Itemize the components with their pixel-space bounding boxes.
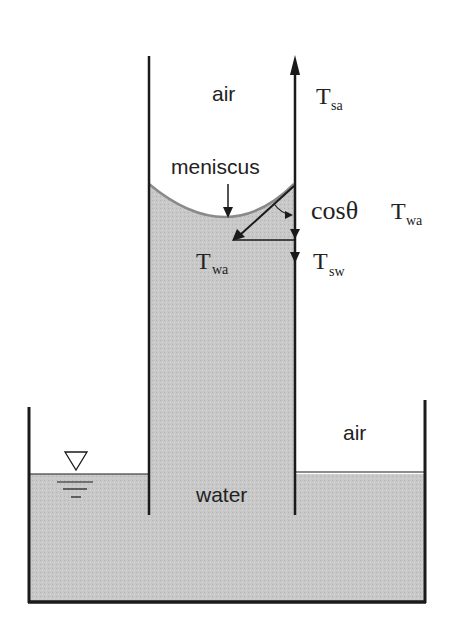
- svg-text:T: T: [391, 198, 406, 224]
- label-meniscus: meniscus: [171, 155, 260, 178]
- diagram-svg: air meniscus air water T sa cosθ T wa T …: [0, 0, 449, 630]
- svg-text:T: T: [313, 248, 328, 274]
- tension-sa-arrow-icon: [290, 55, 300, 75]
- svg-text:wa: wa: [406, 213, 423, 228]
- label-cos-theta-T-wa: cosθ T wa: [311, 196, 423, 228]
- meniscus-pointer-arrow-icon: [223, 184, 233, 218]
- label-T-sw: T sw: [313, 248, 345, 279]
- svg-text:T: T: [316, 83, 331, 109]
- svg-text:wa: wa: [212, 262, 229, 277]
- label-air-tube: air: [212, 82, 235, 105]
- label-water: water: [195, 483, 247, 506]
- svg-text:T: T: [196, 248, 211, 274]
- svg-text:sa: sa: [331, 98, 343, 113]
- svg-text:cosθ: cosθ: [311, 196, 358, 225]
- label-T-sa: T sa: [316, 83, 343, 113]
- capillary-diagram: air meniscus air water T sa cosθ T wa T …: [0, 0, 449, 630]
- svg-text:sw: sw: [329, 264, 345, 279]
- label-air-tank: air: [343, 421, 366, 444]
- tube-water-column: [149, 184, 294, 520]
